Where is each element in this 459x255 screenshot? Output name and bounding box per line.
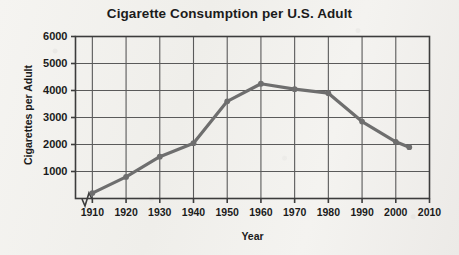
data-point: [258, 81, 264, 87]
data-point: [89, 190, 95, 196]
y-axis-tick-label: 1000: [22, 165, 68, 177]
y-axis-tick-label: 6000: [22, 30, 68, 42]
y-axis-tick-label: 2000: [22, 138, 68, 150]
y-axis-tick-label: 3000: [22, 111, 68, 123]
data-markers: [89, 81, 412, 196]
data-point: [325, 90, 331, 96]
data-point: [123, 174, 129, 180]
y-axis-tick-label: 4000: [22, 84, 68, 96]
data-point: [359, 119, 365, 125]
data-point: [406, 144, 412, 150]
data-point: [292, 86, 298, 92]
y-axis-tick-label: 5000: [22, 57, 68, 69]
data-point: [224, 98, 230, 104]
data-point: [157, 154, 163, 160]
data-point: [191, 140, 197, 146]
data-point: [393, 139, 399, 145]
cigarette-consumption-line-chart: Cigarette Consumption per U.S. Adult Cig…: [0, 0, 459, 255]
x-axis-tick-label: 2010: [410, 206, 450, 218]
